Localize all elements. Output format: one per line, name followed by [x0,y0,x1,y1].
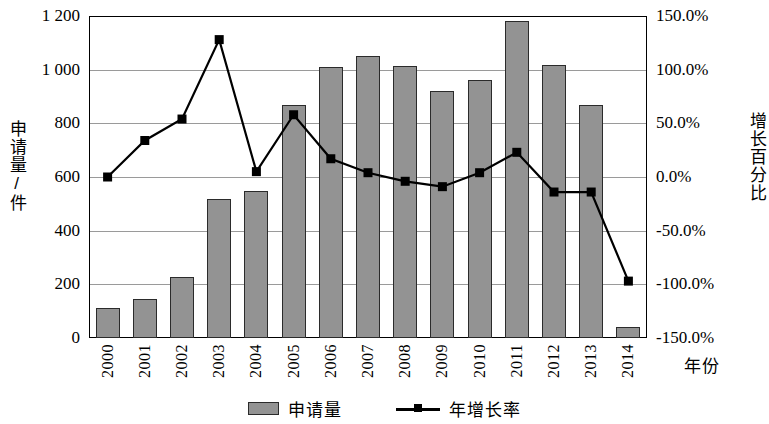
right-axis-title: 增长百分比 [744,112,769,202]
legend-line-label: 年增长率 [449,396,521,421]
x-axis-tick-label: 2000 [99,344,117,378]
left-axis-tick-label: 1 200 [0,6,80,26]
bar [616,327,640,338]
chart-legend: 申请量 年增长率 [0,396,769,421]
bar [356,56,380,338]
legend-line-swatch-icon [396,402,440,415]
bar [207,199,231,338]
x-axis-tick-label: 2004 [247,344,265,378]
right-axis-tick-label: 0.0% [656,167,691,187]
bar [282,105,306,338]
right-axis-tick-label: -50.0% [656,221,706,241]
x-axis-tick-label: 2012 [545,344,563,378]
bar [579,105,603,338]
bar [244,191,268,338]
chart-root: 02004006008001 0001 200 -150.0%-100.0%-5… [0,0,769,424]
x-axis-tick-label: 2008 [396,344,414,378]
x-axis-tick-label: 2011 [508,344,526,377]
x-axis-tick-label: 2010 [471,344,489,378]
bar [542,65,566,338]
right-axis-tick-label: 100.0% [656,60,708,80]
bar [319,67,343,338]
legend-bar-label: 申请量 [288,396,342,421]
x-axis-tick-label: 2003 [210,344,228,378]
left-axis-tick-label: 0 [0,328,80,348]
bar [133,299,157,338]
right-axis-tick-label: -100.0% [656,274,714,294]
x-axis-tick-label: 2014 [619,344,637,378]
x-axis-tick-label: 2001 [136,344,154,378]
x-axis-tick-label: 2013 [582,344,600,378]
x-axis-tick-label: 2006 [322,344,340,378]
bar [393,66,417,338]
legend-item-line: 年增长率 [396,396,521,421]
bar [430,91,454,338]
right-axis-tick-label: 150.0% [656,6,708,26]
x-axis-tick-label: 2005 [285,344,303,378]
legend-item-bar: 申请量 [248,396,342,421]
left-axis-tick-label: 1 000 [0,60,80,80]
bar [468,80,492,338]
left-axis-tick-label: 200 [0,274,80,294]
bar [505,21,529,338]
right-axis-tick-label: -150.0% [656,328,714,348]
legend-bar-swatch-icon [248,402,279,415]
x-axis-title: 年份 [684,352,720,377]
x-axis-tick-label: 2002 [173,344,191,378]
left-axis-title: 申请量/件 [4,120,29,212]
x-axis-tick-label: 2009 [433,344,451,378]
left-axis-tick-label: 400 [0,221,80,241]
bar [96,308,120,338]
bar [170,277,194,338]
right-axis-tick-label: 50.0% [656,113,700,133]
x-axis-tick-label: 2007 [359,344,377,378]
